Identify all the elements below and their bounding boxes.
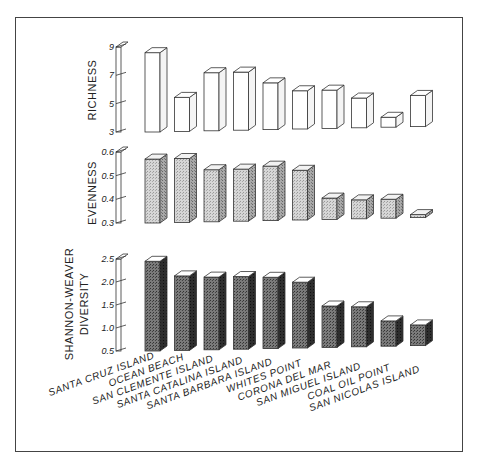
bar (293, 86, 315, 129)
bar (352, 302, 374, 347)
bar (322, 301, 344, 347)
bar (145, 256, 167, 351)
diversity-y-axis: 0.51.01.52.02.5 (100, 254, 128, 356)
bar (175, 154, 197, 223)
bar (322, 193, 344, 219)
bar (263, 161, 285, 220)
chart-canvas: RICHNESS 3579 EVENNESS 0.30.40.50.6 SHAN… (0, 0, 479, 467)
bar (145, 48, 167, 132)
bar (204, 165, 226, 222)
bar (381, 112, 403, 127)
bar (234, 164, 256, 221)
y-tick-label: 9 (109, 42, 114, 52)
bar (293, 165, 315, 220)
richness-bars (145, 48, 433, 132)
y-tick-label: 0.5 (101, 346, 115, 356)
y-tick-label: 1.0 (101, 323, 114, 333)
bar (411, 210, 433, 218)
y-tick-label: 2.0 (100, 277, 114, 287)
y-tick-label: 1.5 (101, 300, 115, 310)
bar (322, 85, 344, 128)
bar (381, 316, 403, 346)
bar (381, 194, 403, 218)
y-tick-label: 2.5 (100, 254, 115, 264)
evenness-panel: EVENNESS 0.30.40.50.6 (86, 147, 433, 228)
diversity-axis-label-line1: SHANNON-WEAVER (63, 248, 75, 361)
diversity-panel: SHANNON-WEAVER DIVERSITY 0.51.01.52.02.5 (63, 248, 433, 361)
y-tick-label: 0.6 (101, 147, 114, 157)
bar (204, 68, 226, 131)
diversity-axis-label-line2: DIVERSITY (78, 273, 90, 336)
y-tick-label: 7 (109, 70, 115, 80)
bar (352, 93, 374, 128)
richness-panel: RICHNESS 3579 (86, 42, 433, 137)
y-tick-label: 0.4 (101, 194, 114, 204)
y-tick-label: 5 (109, 99, 115, 109)
richness-axis-label: RICHNESS (86, 60, 98, 121)
bar (263, 272, 285, 348)
diversity-bars (145, 256, 433, 351)
evenness-y-axis: 0.30.40.50.6 (101, 147, 128, 228)
bar (263, 78, 285, 130)
bar (234, 272, 256, 350)
bar (204, 272, 226, 350)
bar (145, 154, 167, 223)
y-tick-label: 0.3 (101, 218, 114, 228)
evenness-axis-label: EVENNESS (86, 161, 98, 225)
y-tick-label: 0.5 (101, 171, 115, 181)
bar (352, 195, 374, 219)
evenness-bars (145, 154, 433, 224)
bar (175, 92, 197, 131)
y-tick-label: 3 (109, 127, 114, 137)
bar (411, 320, 433, 346)
bar (234, 67, 256, 130)
bar (175, 271, 197, 351)
richness-y-axis: 3579 (109, 42, 128, 137)
bar (293, 277, 315, 348)
bar (411, 90, 433, 126)
category-labels: SANTA CRUZ ISLANDOCEAN BEACHSAN CLEMENTE… (47, 350, 421, 414)
